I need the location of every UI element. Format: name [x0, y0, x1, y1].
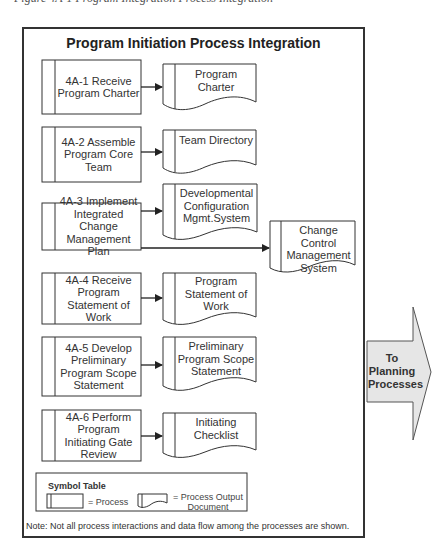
process-label-4a-6: 4A-6 Perform Program Initiating Gate Rev…: [56, 410, 141, 461]
symbol-table-title: Symbol Table: [48, 481, 106, 491]
symbol-process-label: = Process: [88, 497, 134, 507]
process-label-4a-4: 4A-4 Receive Program Statement of Work: [56, 273, 141, 324]
process-label-4a-2: 4A-2 Assemble Program Core Team: [56, 127, 141, 182]
document-label-initiating-checklist: Initiating Checklist: [176, 416, 256, 441]
document-label-change-control: Change Control Management System: [280, 224, 357, 274]
document-label-prelim-scope: Preliminary Program Scope Statement: [176, 340, 256, 378]
process-label-4a-1: 4A-1 Receive Program Charter: [56, 60, 141, 114]
process-label-4a-3: 4A-3 Implement Integrated Change Managem…: [56, 203, 141, 250]
process-label-4a-5: 4A-5 Develop Preliminary Program Scope S…: [56, 337, 141, 396]
document-label-program-charter: Program Charter: [176, 68, 256, 93]
document-label-team-directory: Team Directory: [176, 134, 256, 147]
to-planning-arrow-label: To Planning Processes: [368, 352, 416, 391]
symbol-document-label: = Process Output Document: [172, 492, 244, 512]
document-label-dev-config-mgmt: Developmental Configuration Mgmt.System: [176, 187, 257, 225]
document-label-program-sow: Program Statement of Work: [176, 275, 256, 313]
diagram-note: Note: Not all process interactions and d…: [26, 521, 364, 531]
